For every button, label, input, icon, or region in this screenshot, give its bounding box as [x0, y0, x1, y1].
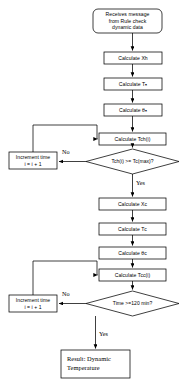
node-calc-tch[interactable] — [99, 133, 166, 145]
edge-increment-2-loop — [33, 261, 98, 295]
node-decision-tch[interactable] — [86, 149, 179, 174]
node-calc-theta-c[interactable] — [99, 247, 166, 259]
node-decision-time[interactable] — [86, 291, 179, 316]
node-calc-theta-h[interactable] — [104, 104, 162, 116]
flowchart-diagram: Receives message from Rule check dynamic… — [0, 0, 186, 389]
node-calc-tc[interactable] — [99, 223, 166, 235]
node-increment-time-2[interactable] — [9, 295, 57, 312]
node-calc-tcc[interactable] — [99, 269, 166, 281]
node-start[interactable] — [93, 9, 162, 33]
node-calc-xh[interactable] — [104, 52, 162, 64]
edge-increment-1-loop — [33, 125, 98, 152]
node-result[interactable] — [61, 350, 130, 378]
node-calc-xc[interactable] — [99, 198, 166, 210]
node-calc-th[interactable] — [104, 78, 162, 90]
node-increment-time-1[interactable] — [9, 152, 57, 169]
